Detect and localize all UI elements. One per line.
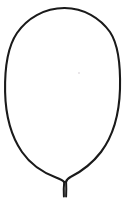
faint-gray-speck xyxy=(78,72,80,74)
drawing-canvas: Hand-drawn black outline of an ovate lea… xyxy=(0,0,128,202)
leaf-drawing xyxy=(0,0,128,202)
